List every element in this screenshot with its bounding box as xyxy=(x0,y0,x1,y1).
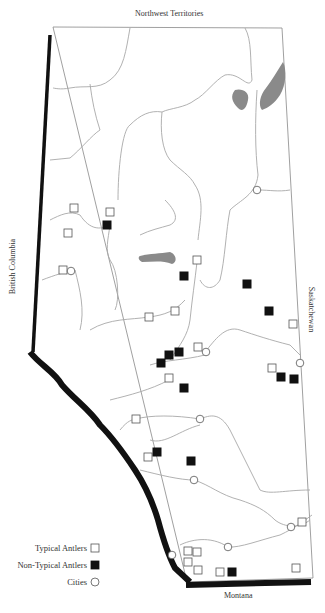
typical-antler-marker xyxy=(194,343,202,351)
non-typical-antler-marker xyxy=(103,221,111,229)
typical-antler-marker xyxy=(144,453,152,461)
bc-border-line xyxy=(33,35,50,352)
city-marker xyxy=(168,551,176,559)
legend-typical-label: Typical Antlers xyxy=(0,543,87,553)
city-marker xyxy=(67,267,75,275)
montana-border-line xyxy=(186,582,311,585)
typical-antler-marker xyxy=(193,256,201,264)
typical-antler-marker xyxy=(289,320,297,328)
label-montana: Montana xyxy=(224,591,252,600)
typical-antler-marker xyxy=(193,548,201,556)
typical-antler-marker xyxy=(184,558,192,566)
non-typical-antler-marker xyxy=(165,351,173,359)
city-marker xyxy=(224,543,232,551)
alberta-map xyxy=(0,0,325,613)
non-typical-antler-marker xyxy=(175,348,183,356)
non-typical-antler-marker xyxy=(277,373,285,381)
typical-antler-marker xyxy=(194,566,202,574)
non-typical-antler-marker xyxy=(265,307,273,315)
label-british-columbia: British Columbia xyxy=(8,239,17,294)
legend-typical-icon xyxy=(91,544,99,552)
typical-antler-marker xyxy=(268,364,276,372)
non-typical-antler-marker xyxy=(180,272,188,280)
typical-antler-marker xyxy=(292,564,300,572)
legend-city-icon xyxy=(91,578,99,586)
typical-antler-marker xyxy=(106,208,114,216)
label-saskatchewan: Saskatchewan xyxy=(307,287,316,332)
typical-antler-marker xyxy=(171,307,179,315)
city-marker xyxy=(196,415,204,423)
non-typical-antler-marker xyxy=(243,280,251,288)
non-typical-antler-marker xyxy=(187,457,195,465)
non-typical-antler-marker xyxy=(290,375,298,383)
typical-antler-marker xyxy=(298,518,306,526)
typical-antler-marker xyxy=(216,568,224,576)
typical-antler-marker xyxy=(70,204,78,212)
typical-antler-marker xyxy=(184,547,192,555)
city-marker xyxy=(190,476,198,484)
typical-antler-marker xyxy=(132,415,140,423)
label-northwest-territories: Northwest Territories xyxy=(135,9,203,18)
typical-antler-marker xyxy=(145,313,153,321)
city-marker xyxy=(287,523,295,531)
city-marker xyxy=(253,186,261,194)
typical-antler-marker xyxy=(59,266,67,274)
city-marker xyxy=(296,359,304,367)
non-typical-antler-marker xyxy=(180,384,188,392)
typical-antler-marker xyxy=(165,374,173,382)
city-marker xyxy=(202,348,210,356)
non-typical-antler-marker xyxy=(153,448,161,456)
non-typical-antler-marker xyxy=(157,359,165,367)
non-typical-antler-marker xyxy=(228,568,236,576)
province-border xyxy=(53,27,313,582)
legend-nontypical-label: Non-Typical Antlers xyxy=(0,560,87,570)
typical-antler-marker xyxy=(64,229,72,237)
legend-nontypical-icon xyxy=(91,561,99,569)
legend-cities-label: Cities xyxy=(0,577,87,587)
